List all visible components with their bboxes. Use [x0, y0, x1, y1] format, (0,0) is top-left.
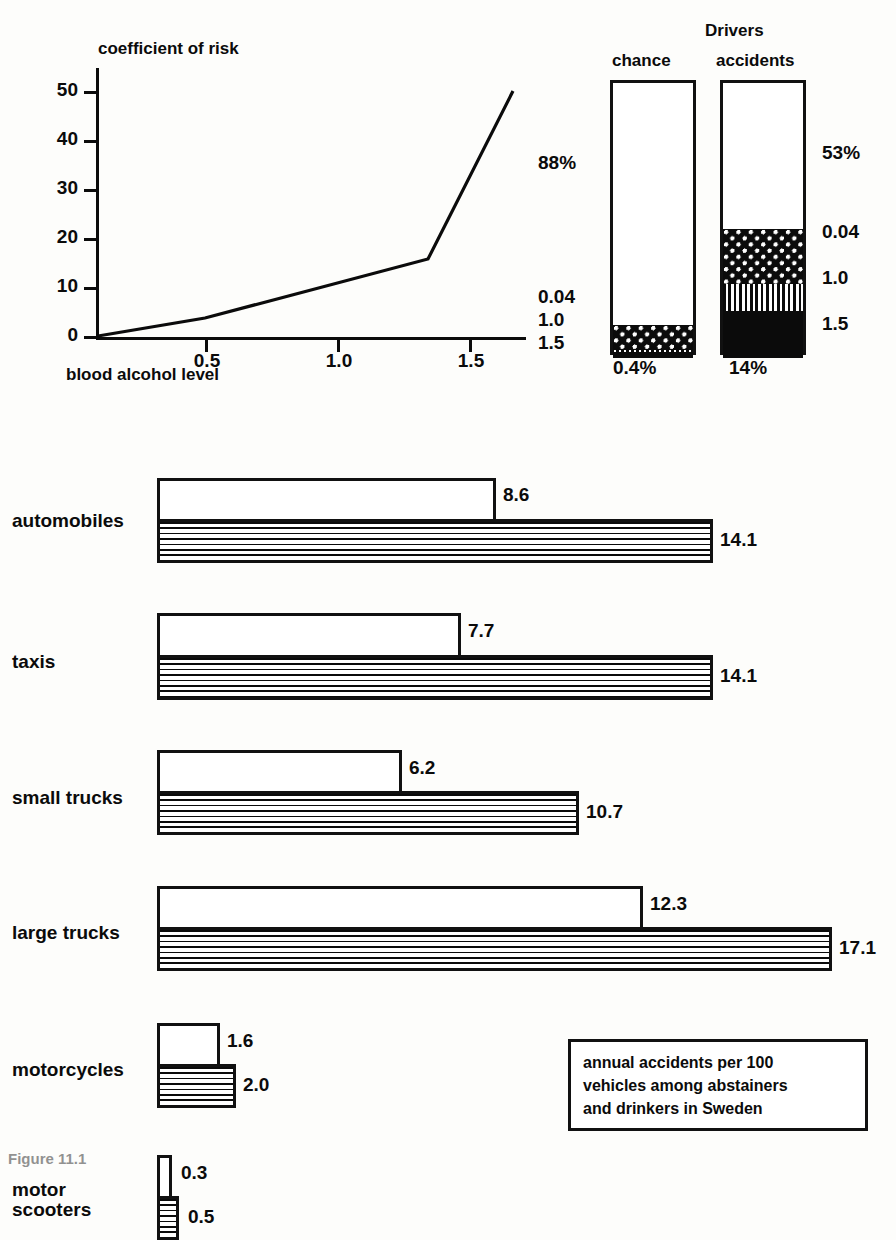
bar-motorcycles-abstainers — [157, 1023, 220, 1067]
bar-small-trucks-drinkers — [157, 791, 579, 835]
row-label-large-trucks: large trucks — [12, 923, 120, 943]
column-header-chance: chance — [612, 52, 671, 70]
figure-number: Figure 11.1 — [8, 1150, 86, 1167]
drivers-title: Drivers — [705, 22, 764, 40]
segment-label-chance-rest: 88% — [538, 153, 576, 173]
bar-motorcycles-drinkers — [157, 1064, 236, 1108]
bar-value-taxis-drinkers: 14.1 — [720, 666, 757, 686]
bar-taxis-abstainers — [157, 613, 461, 658]
line-chart-panel: coefficient of risk 50 40 30 20 10 0 0.5… — [0, 0, 560, 400]
row-label-automobiles: automobiles — [12, 511, 124, 531]
x-axis-title: blood alcohol level — [66, 366, 219, 384]
segment-label-accidents-1-0: 1.0 — [822, 268, 848, 288]
bar-motor-scooters-drinkers — [157, 1196, 179, 1240]
bar-value-taxis-abstainers: 7.7 — [468, 621, 494, 641]
segment-accidents-1-5 — [723, 311, 803, 358]
segment-label-chance-0-04: 0.04 — [538, 287, 575, 307]
bar-value-automobiles-abstainers: 8.6 — [503, 485, 529, 505]
bar-automobiles-drinkers — [157, 519, 713, 563]
column-header-accidents: accidents — [716, 52, 794, 70]
bar-motor-scooters-abstainers — [157, 1155, 172, 1199]
bar-large-trucks-abstainers — [157, 886, 643, 930]
segment-chance-rest — [613, 83, 693, 325]
stacked-bar-panel: Drivers chance 88% 0.04 1.0 1.5 0.4% acc… — [530, 0, 896, 400]
bar-value-motorcycles-abstainers: 1.6 — [227, 1031, 253, 1051]
segment-accidents-1-0 — [723, 284, 803, 312]
bar-value-large-trucks-abstainers: 12.3 — [650, 894, 687, 914]
bar-automobiles-abstainers — [157, 478, 496, 522]
segment-accidents-0-04 — [723, 229, 803, 284]
segment-label-chance-1-0: 1.0 — [538, 310, 564, 330]
segment-label-chance-1-5: 1.5 — [538, 333, 564, 353]
caption-line-1: annual accidents per 100 — [583, 1051, 853, 1074]
bar-large-trucks-drinkers — [157, 927, 832, 971]
bar-value-automobiles-drinkers: 14.1 — [720, 530, 757, 550]
column-footer-chance: 0.4% — [613, 358, 656, 378]
bar-value-motor-scooters-drinkers: 0.5 — [188, 1207, 214, 1227]
segment-label-accidents-0-04: 0.04 — [822, 222, 859, 242]
stacked-bar-chance — [610, 80, 696, 355]
bar-value-motorcycles-drinkers: 2.0 — [243, 1075, 269, 1095]
bar-value-motor-scooters-abstainers: 0.3 — [181, 1163, 207, 1183]
segment-label-accidents-rest: 53% — [822, 143, 860, 163]
row-label-motorcycles: motorcycles — [12, 1060, 124, 1080]
row-label-taxis: taxis — [12, 652, 55, 672]
row-label-motor-scooters: motor scooters — [12, 1180, 91, 1220]
segment-accidents-rest — [723, 83, 803, 229]
stacked-bar-accidents — [720, 80, 806, 355]
caption-box: annual accidents per 100 vehicles among … — [568, 1039, 868, 1131]
bar-taxis-drinkers — [157, 655, 713, 700]
bar-value-large-trucks-drinkers: 17.1 — [839, 938, 876, 958]
bar-value-small-trucks-abstainers: 6.2 — [409, 758, 435, 778]
column-footer-accidents: 14% — [729, 358, 767, 378]
risk-curve — [0, 0, 560, 400]
bar-small-trucks-abstainers — [157, 750, 402, 794]
caption-line-2: vehicles among abstainers — [583, 1074, 853, 1097]
bar-value-small-trucks-drinkers: 10.7 — [586, 802, 623, 822]
segment-chance-0-04 — [613, 325, 693, 349]
caption-line-3: and drinkers in Sweden — [583, 1097, 853, 1120]
row-label-small-trucks: small trucks — [12, 788, 123, 808]
segment-label-accidents-1-5: 1.5 — [822, 314, 848, 334]
